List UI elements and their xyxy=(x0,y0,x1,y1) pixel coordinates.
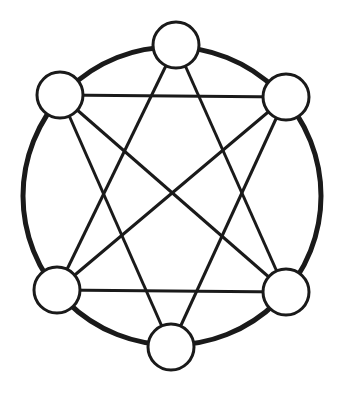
node-bottom-right xyxy=(263,269,309,315)
node-layer xyxy=(34,22,309,370)
node-top-right xyxy=(263,74,309,120)
edge-bottom-left-bottom-right xyxy=(57,290,286,292)
node-top-left xyxy=(37,72,83,118)
node-bottom-left xyxy=(34,267,80,313)
edge-layer xyxy=(57,45,286,347)
node-top xyxy=(153,22,199,68)
graph-diagram xyxy=(0,0,340,410)
edge-top-left-top-right xyxy=(60,95,286,97)
node-bottom xyxy=(148,324,194,370)
